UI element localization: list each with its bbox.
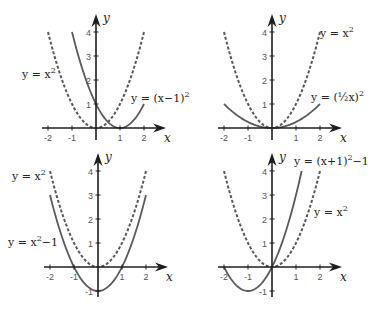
y-tick-label: 3: [88, 191, 93, 201]
y-tick-label: 4: [262, 28, 267, 38]
figure-four-parabola-transformations: -2-1121234xyy = x2y = (x−1)2 -2-1121234x…: [0, 0, 373, 312]
function-label: y = x2: [319, 25, 354, 40]
y-axis-label: y: [102, 11, 110, 25]
panel-bottom-right: -2-112-11234xyy = (x+1)2−1y = x2: [218, 150, 369, 297]
y-tick-label: 1: [86, 100, 91, 110]
y-tick-label: 3: [262, 191, 267, 201]
x-tick-label: 1: [293, 133, 298, 143]
function-label: y = (x+1)2−1: [293, 153, 369, 168]
y-axis-label: y: [278, 150, 286, 164]
x-axis-label: x: [340, 131, 347, 145]
x-tick-label: 2: [317, 272, 322, 282]
function-label: y = x2: [21, 66, 56, 81]
x-tick-label: 2: [317, 133, 322, 143]
y-tick-label: 1: [262, 239, 267, 249]
y-tick-label: 2: [86, 76, 91, 86]
y-tick-label: -1: [85, 287, 93, 297]
y-axis-label: y: [104, 150, 112, 164]
x-tick-label: 2: [141, 133, 146, 143]
x-axis-label: x: [340, 270, 347, 284]
function-label: y = x2: [11, 168, 46, 183]
y-axis-label: y: [278, 11, 286, 25]
x-tick-label: -1: [244, 133, 252, 143]
function-label: y = (½x)2: [310, 89, 364, 104]
x-tick-label: 1: [117, 133, 122, 143]
function-label: y = x2: [313, 204, 348, 219]
y-tick-label: 4: [86, 28, 91, 38]
y-tick-label: 2: [262, 76, 267, 86]
x-tick-label: -1: [244, 272, 252, 282]
function-label: y = x2−1: [7, 234, 58, 249]
x-tick-label: -2: [220, 272, 228, 282]
transformed-curve: [224, 171, 302, 291]
y-tick-label: -1: [259, 287, 267, 297]
y-tick-label: 4: [262, 167, 267, 177]
x-tick-label: -1: [70, 272, 78, 282]
y-tick-label: 3: [262, 52, 267, 62]
x-tick-label: -2: [46, 272, 54, 282]
x-tick-label: 1: [119, 272, 124, 282]
panel-top-right: -2-1121234xyy = x2y = (½x)2: [218, 11, 364, 145]
y-tick-label: 1: [262, 100, 267, 110]
x-tick-label: 2: [143, 272, 148, 282]
panel-bottom-left: -2-112-11234xyy = x2y = x2−1: [7, 150, 173, 297]
y-tick-label: 3: [86, 52, 91, 62]
y-tick-label: 1: [88, 239, 93, 249]
y-tick-label: 2: [88, 215, 93, 225]
panel-top-left: -2-1121234xyy = x2y = (x−1)2: [21, 11, 190, 145]
x-tick-label: -2: [220, 133, 228, 143]
transformed-curve: [72, 32, 144, 128]
x-axis-label: x: [166, 270, 173, 284]
x-tick-label: 1: [293, 272, 298, 282]
x-tick-label: -2: [44, 133, 52, 143]
x-tick-label: -1: [68, 133, 76, 143]
x-axis-label: x: [164, 131, 171, 145]
y-tick-label: 2: [262, 215, 267, 225]
function-label: y = (x−1)2: [130, 90, 190, 105]
y-tick-label: 4: [88, 167, 93, 177]
